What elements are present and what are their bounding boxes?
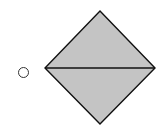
diamond-figure-icon — [0, 0, 165, 133]
